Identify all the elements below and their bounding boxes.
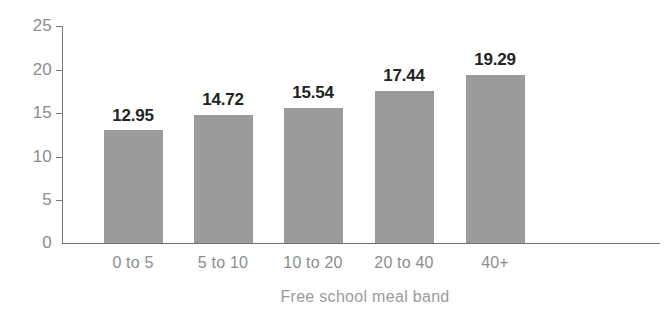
y-tick-label-10: 10	[4, 148, 52, 165]
y-tick-label-0: 0	[4, 234, 52, 251]
bar-value-label-5-to-10: 14.72	[178, 91, 268, 108]
bar-10-to-20[interactable]	[284, 108, 343, 244]
x-axis-title-text: Free school meal band	[222, 288, 449, 306]
y-axis-line	[62, 26, 63, 244]
bar-value-label-20-to-40: 17.44	[359, 67, 449, 84]
bar-value-label-10-to-20: 15.54	[268, 84, 358, 101]
bar-value-label-40-plus: 19.29	[450, 51, 540, 68]
y-tick-label-15: 15	[4, 104, 52, 121]
y-tick-label-5: 5	[4, 191, 52, 208]
x-axis-line	[62, 243, 660, 244]
bar-5-to-10[interactable]	[194, 115, 253, 243]
bar-chart: 25 20 15 10 5 0 12.95 14.72 15.54 17.44 …	[0, 0, 672, 322]
x-axis-title: Free school meal band	[0, 288, 672, 306]
y-tick-label-20: 20	[4, 61, 52, 78]
bar-value-label-0-to-5: 12.95	[88, 107, 178, 124]
x-category-label-40-plus: 40+	[440, 255, 550, 271]
bar-20-to-40[interactable]	[375, 91, 434, 243]
y-tick-label-25: 25	[4, 17, 52, 34]
bar-40-plus[interactable]	[466, 75, 525, 243]
bar-0-to-5[interactable]	[104, 130, 163, 243]
